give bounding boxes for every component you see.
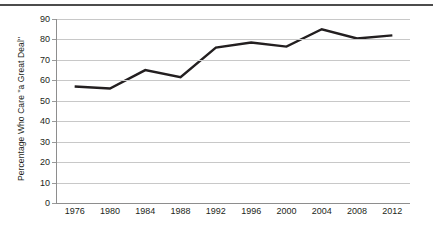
gridline: [57, 183, 410, 184]
y-axis-tick-label: 90: [40, 15, 50, 24]
y-axis-tick-label: 0: [45, 199, 50, 208]
y-axis-tick-labels: 0102030405060708090: [30, 19, 50, 203]
x-axis-tick-label: 1980: [100, 206, 120, 217]
gridline: [57, 80, 410, 81]
gridline: [57, 19, 410, 20]
x-axis-tick-label: 1992: [206, 206, 226, 217]
y-axis-tick-label: 20: [40, 158, 50, 167]
gridline: [57, 162, 410, 163]
x-axis-tick-label: 1996: [241, 206, 261, 217]
y-axis-tick-label: 40: [40, 117, 50, 126]
x-axis-tick-label: 2000: [276, 206, 296, 217]
x-axis-tick-label: 2004: [312, 206, 332, 217]
x-axis-tick-labels: 1976198019841988199219962000200420082012: [57, 206, 410, 222]
y-axis-tick-label: 70: [40, 55, 50, 64]
x-axis-tick-label: 1984: [135, 206, 155, 217]
gridline: [57, 39, 410, 40]
gridline: [57, 142, 410, 143]
plot-area: [57, 19, 410, 203]
gridline: [57, 60, 410, 61]
y-axis-tick-label: 10: [40, 178, 50, 187]
top-border-rule: [0, 4, 433, 6]
chart-figure: Percentage Who Care "a Great Deal" 01020…: [0, 0, 433, 235]
y-axis-tick-label: 30: [40, 137, 50, 146]
gridline: [57, 203, 410, 204]
y-axis-title: Percentage Who Care "a Great Deal": [16, 14, 26, 204]
x-axis-tick-label: 1976: [65, 206, 85, 217]
gridline: [57, 101, 410, 102]
y-axis-tick-label: 50: [40, 96, 50, 105]
line-series: [57, 19, 410, 203]
x-axis-tick-label: 1988: [171, 206, 191, 217]
y-axis-tick-label: 80: [40, 35, 50, 44]
x-axis-tick-label: 2008: [347, 206, 367, 217]
x-axis-tick-label: 2012: [382, 206, 402, 217]
gridline: [57, 121, 410, 122]
y-axis-tick-label: 60: [40, 76, 50, 85]
